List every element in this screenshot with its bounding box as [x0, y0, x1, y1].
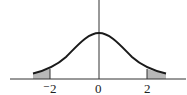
tick-label-0: 0: [95, 81, 102, 95]
tick-label-2: 2: [144, 81, 151, 95]
normal-curve-chart: ⁻2 0 2: [0, 0, 187, 95]
tick-label-neg2: ⁻2: [43, 81, 57, 95]
